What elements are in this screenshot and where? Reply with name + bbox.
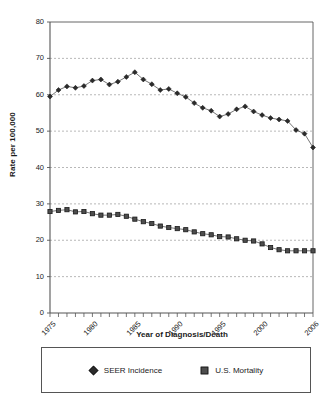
y-tick-label: 80: [22, 18, 44, 26]
y-tick-label: 50: [22, 127, 44, 135]
chart-plot-area: Rate per 100,000 Year of Diagnosis/Death…: [0, 0, 332, 345]
chart-svg: [0, 0, 332, 345]
y-tick-label: 30: [22, 200, 44, 208]
y-tick-label: 20: [22, 236, 44, 244]
square-marker-icon: [201, 366, 209, 374]
legend-item-us-mortality: U.S. Mortality: [200, 366, 263, 375]
legend-label-seer-incidence: SEER Incidence: [104, 366, 162, 375]
chart-figure: Rate per 100,000 Year of Diagnosis/Death…: [0, 0, 332, 403]
y-tick-label: 10: [22, 273, 44, 281]
y-axis-title: Rate per 100,000: [8, 85, 17, 205]
y-tick-label: 40: [22, 164, 44, 172]
y-tick-label: 60: [22, 91, 44, 99]
chart-legend: SEER Incidence U.S. Mortality: [41, 347, 311, 393]
y-tick-label: 0: [22, 309, 44, 317]
y-tick-label: 70: [22, 54, 44, 62]
legend-label-us-mortality: U.S. Mortality: [215, 366, 263, 375]
legend-entries: SEER Incidence U.S. Mortality: [42, 348, 310, 392]
legend-item-seer-incidence: SEER Incidence: [89, 366, 162, 375]
diamond-marker-icon: [88, 365, 98, 375]
